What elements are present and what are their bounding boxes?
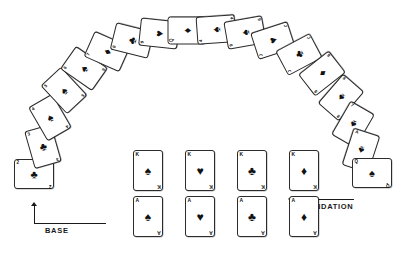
spades-pip-icon: ♠ — [134, 165, 162, 177]
card-rank-corner-top: A — [292, 198, 296, 203]
base-leader-vertical — [34, 206, 35, 224]
card-rank-corner-bottom: 4 — [64, 123, 68, 128]
card-rank-corner-top: K — [240, 152, 244, 157]
card-rank-corner-bottom: K — [157, 184, 161, 189]
card-rank-corner-top: 7 — [86, 53, 91, 57]
card-a-hearts-foundation[interactable]: A♥A — [185, 196, 215, 237]
card-rank-corner-top: K — [136, 152, 140, 157]
diamonds-pip-icon: ♦ — [310, 60, 335, 87]
spades-pip-icon: ♠ — [353, 168, 391, 179]
solitaire-layout-diagram: 2♣23♣34♠45♠56♠67♦78♣89♥9Q♦Q4♠49♠9J♥JJ♣J9… — [0, 0, 420, 253]
card-a-diamonds-foundation[interactable]: A♦A — [289, 196, 319, 237]
card-rank-corner-bottom: A — [261, 230, 265, 235]
card-rank-corner-top: 2 — [17, 161, 20, 166]
card-k-spades-foundation[interactable]: K♠K — [133, 150, 163, 191]
card-rank-corner-top: A — [136, 198, 140, 203]
card-rank-corner-top: J — [288, 69, 293, 73]
card-rank-corner-top: K — [188, 152, 192, 157]
clubs-pip-icon: ♣ — [238, 211, 266, 223]
card-rank-corner-top: 3 — [27, 132, 31, 137]
card-rank-corner-bottom: 2 — [49, 183, 52, 188]
card-rank-corner-bottom: 8 — [341, 77, 346, 82]
base-label: BASE — [45, 226, 69, 235]
hearts-pip-icon: ♥ — [186, 165, 214, 177]
base-leader-horizontal — [34, 223, 106, 224]
clubs-pip-icon: ♣ — [238, 165, 266, 177]
clubs-pip-icon: ♣ — [288, 40, 310, 68]
card-rank-corner-top: 9 — [314, 89, 319, 94]
card-rank-corner-top: 9 — [229, 44, 234, 47]
card-rank-corner-bottom: K — [313, 184, 317, 189]
spades-pip-icon: ♠ — [347, 141, 375, 159]
card-rank-corner-top: 4 — [199, 39, 204, 42]
spades-pip-icon: ♠ — [51, 78, 78, 104]
card-rank-corner-bottom: J — [282, 24, 287, 28]
card-rank-corner-bottom: A — [209, 230, 213, 235]
card-rank-corner-bottom: 5 — [79, 92, 84, 97]
hearts-pip-icon: ♥ — [152, 20, 166, 47]
card-rank-corner-top: 5 — [44, 84, 49, 89]
card-rank-corner-top: Q — [170, 38, 175, 42]
card-rank-corner-top: 8 — [112, 45, 117, 49]
diamonds-pip-icon: ♦ — [290, 165, 318, 177]
card-rank-corner-bottom: A — [157, 230, 161, 235]
card-rank-corner-bottom: 6 — [100, 67, 105, 72]
card-rank-corner-top: Q — [355, 160, 359, 165]
card-q-spades-arc-17[interactable]: Q♠Q — [352, 158, 392, 188]
card-rank-corner-bottom: K — [261, 184, 265, 189]
hearts-pip-icon: ♥ — [186, 211, 214, 223]
card-rank-corner-top: A — [188, 198, 192, 203]
card-rank-corner-top: 9 — [140, 41, 145, 44]
clubs-pip-icon: ♣ — [29, 138, 57, 156]
card-rank-corner-bottom: 3 — [55, 156, 59, 161]
card-rank-corner-bottom: 9 — [256, 18, 261, 21]
spades-pip-icon: ♠ — [134, 211, 162, 223]
card-rank-corner-bottom: 7 — [350, 104, 354, 109]
spades-pip-icon: ♠ — [36, 106, 64, 129]
card-rank-corner-top: 4 — [31, 107, 35, 112]
card-a-clubs-foundation[interactable]: A♣A — [237, 196, 267, 237]
card-rank-corner-bottom: Q — [386, 182, 390, 187]
card-rank-corner-bottom: A — [313, 230, 317, 235]
card-rank-corner-bottom: 4 — [228, 17, 233, 20]
card-a-spades-foundation[interactable]: A♠A — [133, 196, 163, 237]
diamonds-pip-icon: ♦ — [290, 211, 318, 223]
diamonds-pip-icon: ♦ — [182, 18, 193, 44]
card-rank-corner-top: K — [292, 152, 296, 157]
card-rank-corner-bottom: J — [305, 36, 310, 40]
card-rank-corner-top: 6 — [63, 66, 68, 71]
card-rank-corner-bottom: 9 — [325, 54, 330, 59]
card-rank-corner-top: J — [259, 53, 264, 57]
card-rank-corner-bottom: A — [354, 130, 358, 135]
card-k-diamonds-foundation[interactable]: K♦K — [289, 150, 319, 191]
card-k-clubs-foundation[interactable]: K♣K — [237, 150, 267, 191]
card-k-hearts-foundation[interactable]: K♥K — [185, 150, 215, 191]
card-rank-corner-top: A — [240, 198, 244, 203]
card-rank-corner-bottom: K — [209, 184, 213, 189]
spades-pip-icon: ♠ — [210, 16, 223, 43]
clubs-pip-icon: ♣ — [15, 169, 53, 180]
